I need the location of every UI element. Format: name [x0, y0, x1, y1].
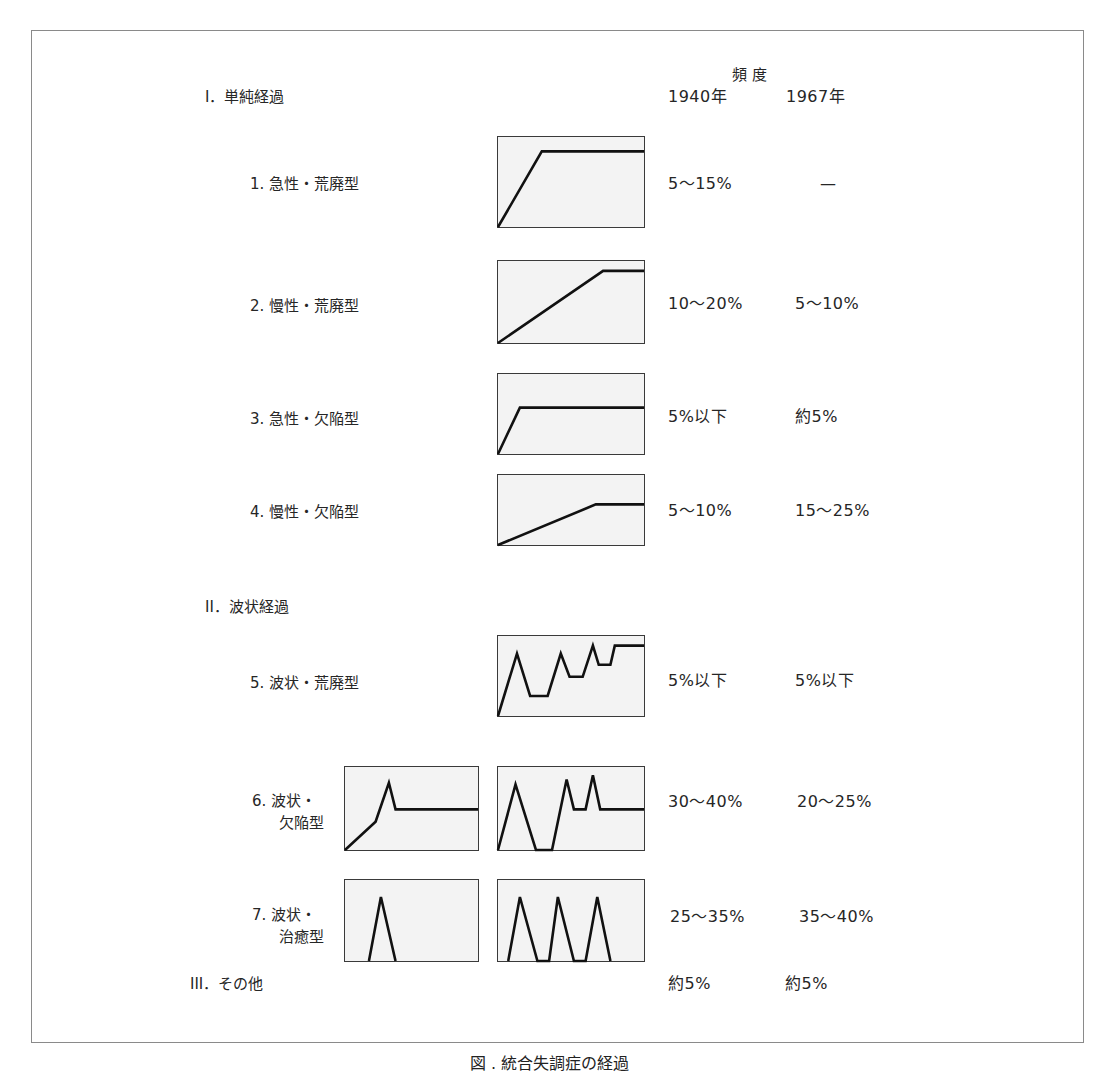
type-4-course-diagram [497, 474, 645, 546]
type-1-freq-1940: 5～15% [668, 175, 732, 193]
type-4-label: 4. 慢性・欠陥型 [250, 503, 359, 521]
type-3-freq-1967: 約5% [795, 408, 838, 426]
year-1940-header: 1940年 [668, 88, 727, 106]
type-3-label: 3. 急性・欠陥型 [250, 410, 359, 428]
section-simple-course: I．単純経過 [205, 88, 284, 106]
type-7-freq-1967: 35～40% [799, 908, 874, 926]
figure-caption: 図 . 統合失調症の経過 [0, 1050, 1099, 1074]
type-6-multi-episode-diagram [497, 766, 645, 851]
type-7-freq-1940: 25～35% [670, 908, 745, 926]
type-5-freq-1940: 5%以下 [668, 672, 727, 690]
section-wave-course: II．波状経過 [205, 598, 289, 616]
type-5-label: 5. 波状・荒廃型 [250, 674, 359, 692]
type-1-course-diagram [497, 136, 645, 228]
other-freq-1967: 約5% [785, 975, 828, 993]
type-6-freq-1940: 30～40% [668, 793, 743, 811]
type-6-freq-1967: 20～25% [797, 793, 872, 811]
type-3-freq-1940: 5%以下 [668, 408, 727, 426]
type-4-freq-1967: 15～25% [795, 502, 870, 520]
type-2-freq-1967: 5～10% [795, 295, 859, 313]
type-1-freq-1967: — [820, 175, 837, 193]
year-1967-header: 1967年 [786, 88, 845, 106]
type-1-label: 1. 急性・荒廃型 [250, 175, 359, 193]
type-5-course-diagram [497, 635, 645, 717]
type-7-label: 7. 波状・ 治癒型 [252, 904, 324, 948]
type-2-label: 2. 慢性・荒廃型 [250, 297, 359, 315]
frequency-header: 頻 度 [732, 66, 767, 84]
other-freq-1940: 約5% [668, 975, 711, 993]
type-2-course-diagram [497, 260, 645, 344]
type-6-single-episode-diagram [344, 766, 479, 851]
section-other: III．その他 [190, 975, 263, 993]
type-7-single-episode-diagram [344, 879, 479, 962]
type-2-freq-1940: 10～20% [668, 295, 743, 313]
type-4-freq-1940: 5～10% [668, 502, 732, 520]
type-7-multi-episode-diagram [497, 879, 645, 962]
type-3-course-diagram [497, 373, 645, 455]
type-5-freq-1967: 5%以下 [795, 672, 854, 690]
type-6-label: 6. 波状・ 欠陥型 [252, 790, 324, 834]
